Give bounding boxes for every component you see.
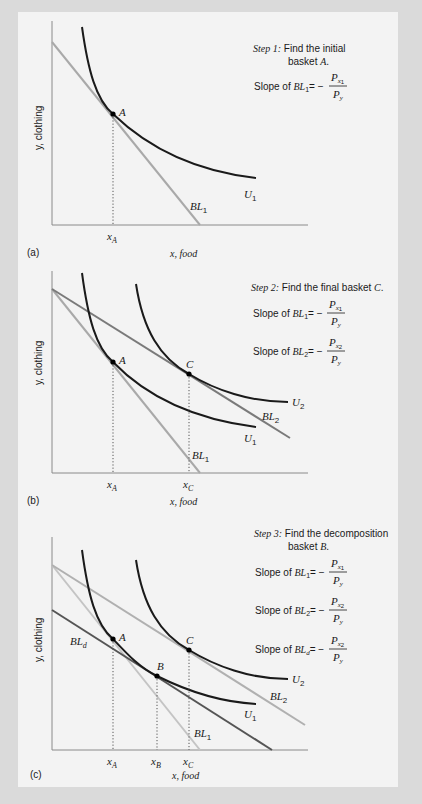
step-title: Step 3: Find the decomposition xyxy=(254,528,388,539)
indifference-curve-u1 xyxy=(82,550,256,704)
panel-a: A U1 BL1 xA x, food (a) y, clothing Step… xyxy=(27,21,347,259)
slope-annotation-bl1: Slope of BL1= − Px1 Py xyxy=(255,557,347,588)
panel-label-b: (b) xyxy=(27,495,39,506)
panel-c: A B C BLd U2 BL2 U1 BL1 xA xB xC x, food… xyxy=(30,528,388,781)
bl1-label: BL1 xyxy=(192,449,210,464)
indifference-curve-u2 xyxy=(136,284,288,402)
tick-label-xc: xC xyxy=(182,755,194,770)
y-axis-label: y, clothing xyxy=(33,618,44,662)
svg-text:Slope of BLd= −: Slope of BLd= − xyxy=(255,644,324,657)
svg-text:Px2: Px2 xyxy=(330,634,345,648)
point-c xyxy=(186,371,191,376)
budget-line-bl1 xyxy=(52,289,200,473)
slope-annotation-bl2: Slope of BL2= − Px2 Py xyxy=(255,595,347,626)
point-c-label: C xyxy=(186,358,194,370)
point-a-label: A xyxy=(118,354,126,366)
svg-text:Py: Py xyxy=(332,574,344,588)
step-title: Step 1: Find the initial xyxy=(253,43,346,54)
u1-label: U1 xyxy=(244,188,257,203)
panel-label-a: (a) xyxy=(27,247,39,258)
y-axis-label: y, clothing xyxy=(33,341,44,385)
budget-line-bld xyxy=(52,610,272,750)
svg-text:Slope of BL2= −: Slope of BL2= − xyxy=(253,346,323,358)
step-title-line2: basket A. xyxy=(288,56,329,67)
tick-label-xa: xA xyxy=(106,755,117,770)
svg-text:Px2: Px2 xyxy=(328,336,343,350)
panel-b: A C U2 BL2 U1 BL1 xA xC x, food (b) y, c… xyxy=(27,271,384,507)
svg-text:Py: Py xyxy=(330,315,342,329)
bl2-label: BL2 xyxy=(270,690,288,705)
tick-label-xb: xB xyxy=(150,755,161,770)
x-axis-label: x, food xyxy=(169,496,198,507)
point-a xyxy=(110,636,115,641)
point-a xyxy=(110,111,115,116)
svg-text:Slope of BL2= −: Slope of BL2= − xyxy=(255,605,325,617)
svg-text:Py: Py xyxy=(332,651,344,665)
svg-text:Px1: Px1 xyxy=(330,71,345,85)
slope-annotation-bld: Slope of BLd= − Px2 Py xyxy=(255,634,347,665)
x-axis-label: x, food xyxy=(171,770,200,781)
svg-text:Py: Py xyxy=(330,353,342,367)
svg-text:Slope of BL1= −: Slope of BL1= − xyxy=(254,81,324,93)
point-b xyxy=(154,673,159,678)
indifference-curve-u1 xyxy=(82,273,256,427)
point-a-label: A xyxy=(118,631,126,643)
tick-label-xc: xC xyxy=(182,478,194,493)
u2-label: U2 xyxy=(292,396,305,411)
figure-svg: A U1 BL1 xA x, food (a) y, clothing Step… xyxy=(0,0,422,804)
bl1-label: BL1 xyxy=(190,200,208,215)
svg-text:Px1: Px1 xyxy=(330,557,345,571)
u1-label: U1 xyxy=(244,708,257,723)
indifference-curve-u1 xyxy=(82,27,256,178)
budget-line-bl1 xyxy=(52,42,200,225)
x-axis-label: x, food xyxy=(169,248,198,259)
point-a-label: A xyxy=(118,106,126,118)
point-c xyxy=(186,647,191,652)
point-c-label: C xyxy=(186,634,194,646)
svg-text:Px1: Px1 xyxy=(328,298,343,312)
svg-text:Slope of BL1= −: Slope of BL1= − xyxy=(253,308,323,320)
point-a xyxy=(110,359,115,364)
slope-annotation-bl1: Slope of BL1= − Px1 Py xyxy=(254,71,347,102)
tick-label-xa: xA xyxy=(106,230,117,245)
step-title-line2: basket B. xyxy=(288,541,329,552)
bld-label: BLd xyxy=(70,635,88,650)
tick-label-xa: xA xyxy=(106,478,117,493)
u2-label: U2 xyxy=(292,673,305,688)
bl1-label: BL1 xyxy=(194,727,212,742)
slope-annotation-bl1: Slope of BL1= − Px1 Py xyxy=(253,298,345,329)
svg-text:Slope of BL1= −: Slope of BL1= − xyxy=(255,567,325,579)
slope-annotation-bl2: Slope of BL2= − Px2 Py xyxy=(253,336,345,367)
svg-text:Py: Py xyxy=(332,612,344,626)
point-b-label: B xyxy=(157,660,164,672)
panel-label-c: (c) xyxy=(30,769,42,780)
step-title: Step 2: Find the final basket C. xyxy=(251,282,384,293)
svg-text:Py: Py xyxy=(332,88,344,102)
svg-text:Px2: Px2 xyxy=(330,595,345,609)
u1-label: U1 xyxy=(244,432,257,447)
y-axis-label: y, clothing xyxy=(33,106,44,150)
